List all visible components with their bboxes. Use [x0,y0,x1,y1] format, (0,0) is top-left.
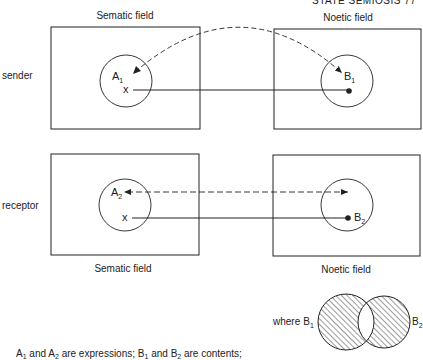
running-head: STATE SEMIOSIS 77 [312,0,416,6]
sender-content-B1: B1 [344,70,355,84]
receptor-content-B2: B2 [354,211,365,225]
sender-expression-A1: A1 [112,70,123,84]
sender-sematic-field-box [51,27,200,129]
receptor-sematic-field-box [51,154,199,255]
receptor-arrowhead-left-icon [124,189,131,195]
semiosis-diagram: STATE SEMIOSIS 77 Sematic field Noetic f… [0,0,423,360]
receptor-content-dot [345,215,351,221]
top-right-field-label: Noetic field [323,12,372,23]
sender-content-dot [346,88,352,94]
venn-diagram [318,294,410,350]
sender-dashed-arc-arrow [135,27,342,73]
bottom-right-field-label: Noetic field [321,264,370,275]
venn-right-label: B2 [412,316,423,329]
bottom-left-field-label: Sematic field [94,263,151,274]
venn-prefix: whereB1 [272,316,314,329]
sender-arc-arrowhead-left-icon [133,66,141,74]
sender-expression-circle [100,55,152,107]
top-left-field-label: Sematic field [96,10,153,21]
sender-marker-x: x [123,83,129,95]
receptor-expression-A2: A2 [111,186,122,200]
caption: A1 and A2 are expressions; B1 and B2 are… [16,348,242,360]
receptor-noetic-field-box [273,155,420,256]
sender-label: sender [2,70,33,81]
receptor-label: receptor [2,200,39,211]
receptor-expression-circle [99,179,151,231]
receptor-marker-x: x [122,211,128,223]
